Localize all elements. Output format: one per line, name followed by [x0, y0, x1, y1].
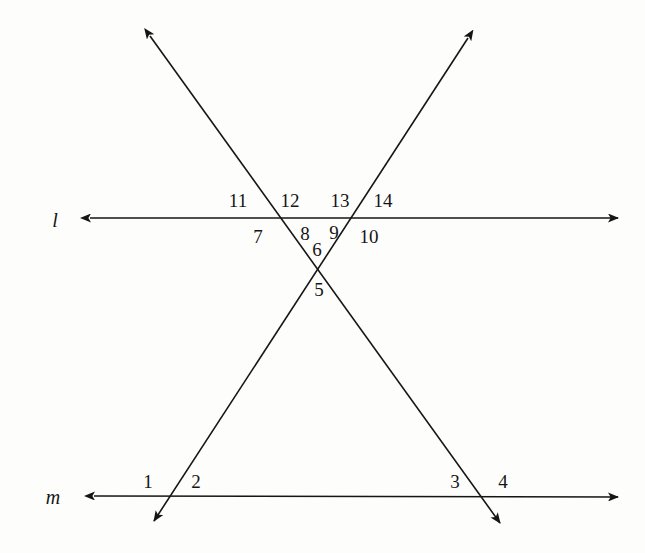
figure-canvas — [0, 0, 645, 553]
angle-label-13: 13 — [331, 191, 350, 210]
angle-label-11: 11 — [229, 191, 247, 210]
angle-label-4: 4 — [498, 472, 508, 491]
angle-label-7: 7 — [253, 227, 263, 246]
line-label-m: m — [46, 487, 60, 507]
angle-label-6: 6 — [312, 240, 322, 259]
geometry-diagram: l m 1112131478910651234 — [0, 0, 645, 553]
angle-label-12: 12 — [281, 191, 300, 210]
angle-label-14: 14 — [374, 191, 393, 210]
line-label-l: l — [52, 210, 58, 230]
angle-label-5: 5 — [314, 280, 324, 299]
angle-label-10: 10 — [360, 227, 379, 246]
angle-label-9: 9 — [329, 223, 339, 242]
transversal-right — [154, 38, 468, 521]
transversal-left — [150, 36, 500, 523]
angle-label-1: 1 — [143, 472, 153, 491]
angle-label-3: 3 — [450, 472, 460, 491]
angle-label-8: 8 — [300, 224, 310, 243]
lines-group — [90, 36, 618, 523]
angle-label-2: 2 — [191, 472, 201, 491]
line-m — [94, 496, 618, 497]
